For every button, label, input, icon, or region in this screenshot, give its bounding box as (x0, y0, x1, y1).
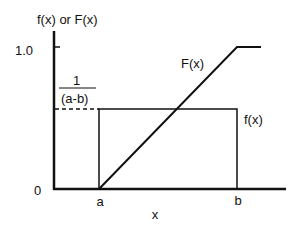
f-density-line (99, 109, 237, 189)
y-tick-label-0: 0 (34, 184, 41, 197)
F-curve-label: F(x) (181, 57, 204, 70)
y-tick-label-1: 1.0 (15, 44, 33, 57)
density-denominator: (a-b) (61, 92, 88, 105)
x-axis-title: x (152, 208, 159, 221)
y-axis-title: f(x) or F(x) (37, 13, 98, 26)
x-tick-label-b: b (234, 194, 241, 207)
x-tick-label-a: a (96, 195, 103, 208)
density-numerator: 1 (73, 74, 80, 87)
f-curve-label: f(x) (244, 113, 263, 126)
